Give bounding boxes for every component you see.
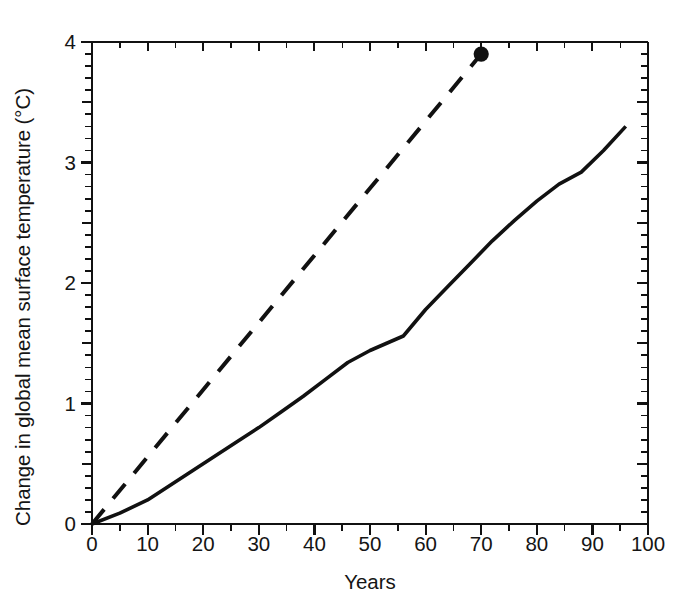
x-tick-label: 40 (303, 534, 326, 555)
x-tick-label: 20 (192, 534, 215, 555)
x-tick-label: 0 (86, 534, 97, 555)
data-markers (474, 46, 489, 61)
x-tick-label: 60 (414, 534, 437, 555)
x-tick-label: 90 (581, 534, 604, 555)
x-axis-label: Years (92, 570, 648, 594)
axis-ticks (81, 42, 648, 535)
y-tick-label: 0 (50, 514, 76, 535)
x-tick-label: 100 (631, 534, 665, 555)
y-tick-label: 4 (50, 32, 76, 53)
series-line-dashed-projection (92, 54, 481, 524)
chart-figure: Change in global mean surface temperatur… (0, 0, 697, 614)
axis-frame (92, 42, 648, 524)
x-tick-label: 50 (359, 534, 382, 555)
x-tick-label: 80 (525, 534, 548, 555)
y-tick-label: 2 (50, 273, 76, 294)
endpoint-dot-marker (474, 46, 489, 61)
y-tick-label: 1 (50, 393, 76, 414)
x-tick-label: 70 (470, 534, 493, 555)
y-axis-label: Change in global mean surface temperatur… (0, 0, 46, 614)
series-line-solid-projection (92, 126, 626, 524)
data-series (92, 54, 626, 524)
x-tick-label: 10 (136, 534, 159, 555)
y-tick-label: 3 (50, 152, 76, 173)
x-tick-label: 30 (247, 534, 270, 555)
plot-area (0, 0, 697, 614)
